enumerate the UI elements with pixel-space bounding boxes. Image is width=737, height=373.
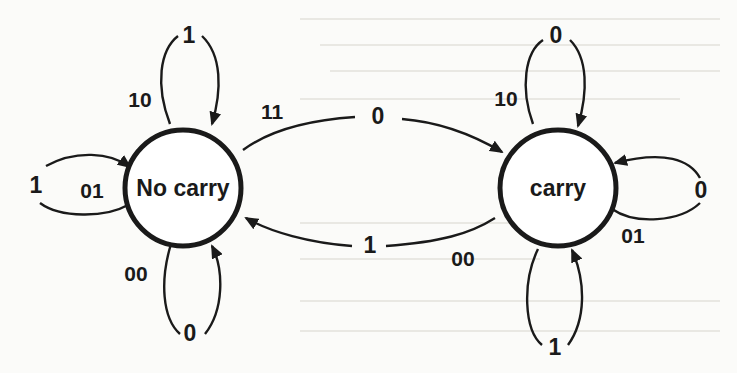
- edge-input-label: 00: [124, 262, 147, 285]
- edge-output-label: 0: [550, 22, 563, 48]
- loop-nocarry-top: [161, 36, 218, 124]
- state-label: carry: [530, 175, 586, 201]
- state-label: No carry: [136, 175, 230, 201]
- edge-input-label: 01: [80, 179, 104, 202]
- edge-input-label: 10: [128, 88, 151, 111]
- loop-carry-bottom: [527, 249, 582, 345]
- state-diagram: No carry carry 1 10 1 01 00 0 11 0 1 00 …: [0, 0, 737, 373]
- edge-input-label: 01: [621, 224, 645, 247]
- edge-output-label: 0: [184, 320, 197, 346]
- loop-carry-right: [612, 157, 700, 219]
- edge-output-label: 1: [183, 22, 196, 48]
- state-no-carry: No carry: [125, 130, 241, 246]
- edge-input-label: 00: [451, 247, 474, 270]
- edge-output-label: 1: [549, 334, 562, 360]
- edge-input-label: 10: [494, 87, 517, 110]
- edge-input-label: 11: [261, 100, 284, 123]
- loop-carry-top: [526, 40, 585, 126]
- edge-output-label: 1: [364, 232, 377, 258]
- state-carry: carry: [500, 130, 616, 246]
- edge-output-label: 0: [695, 177, 708, 203]
- edge-output-label: 0: [372, 103, 385, 129]
- edge-output-label: 1: [30, 172, 43, 198]
